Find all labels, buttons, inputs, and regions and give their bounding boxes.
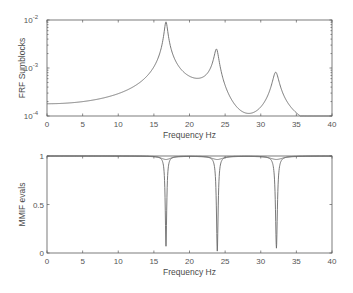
y-tick-label: 10-2 [24, 14, 39, 25]
x-tick-label: 35 [292, 257, 301, 266]
x-tick-label: 40 [328, 120, 337, 129]
x-axis-label: Frequency Hz [163, 267, 216, 277]
x-tick-label: 10 [114, 257, 123, 266]
x-tick-label: 20 [185, 120, 194, 129]
x-tick-label: 0 [45, 257, 50, 266]
y-axis-label: MMIF evals [17, 183, 27, 227]
x-tick-label: 35 [292, 120, 301, 129]
y-axis-label: FRF Sumblocks [17, 38, 27, 98]
x-tick-label: 5 [80, 257, 85, 266]
x-tick-label: 15 [149, 257, 158, 266]
y-tick-label: 0 [40, 249, 45, 258]
y-tick-label: 10-4 [24, 110, 39, 121]
axes-frame [47, 20, 332, 116]
x-axis-label: Frequency Hz [163, 130, 216, 140]
x-tick-label: 30 [256, 257, 265, 266]
x-tick-label: 30 [256, 120, 265, 129]
mmif-evals-plot: 051015202530354000.51Frequency HzMMIF ev… [17, 152, 337, 277]
chart-canvas: 051015202530354010-410-310-2Frequency Hz… [0, 0, 353, 293]
x-tick-label: 40 [328, 257, 337, 266]
axes-frame [47, 156, 332, 253]
x-tick-label: 10 [114, 120, 123, 129]
x-tick-label: 20 [185, 257, 194, 266]
mmif-curve [47, 156, 332, 251]
x-tick-label: 5 [80, 120, 85, 129]
frf-sumblocks-plot: 051015202530354010-410-310-2Frequency Hz… [17, 14, 337, 140]
x-tick-label: 15 [149, 120, 158, 129]
x-tick-label: 25 [221, 120, 230, 129]
y-tick-label: 0.5 [33, 201, 45, 210]
y-tick-label: 1 [40, 152, 45, 161]
x-tick-label: 0 [45, 120, 50, 129]
x-tick-label: 25 [221, 257, 230, 266]
frf-curve [47, 22, 332, 116]
figure: 051015202530354010-410-310-2Frequency Hz… [0, 0, 353, 293]
